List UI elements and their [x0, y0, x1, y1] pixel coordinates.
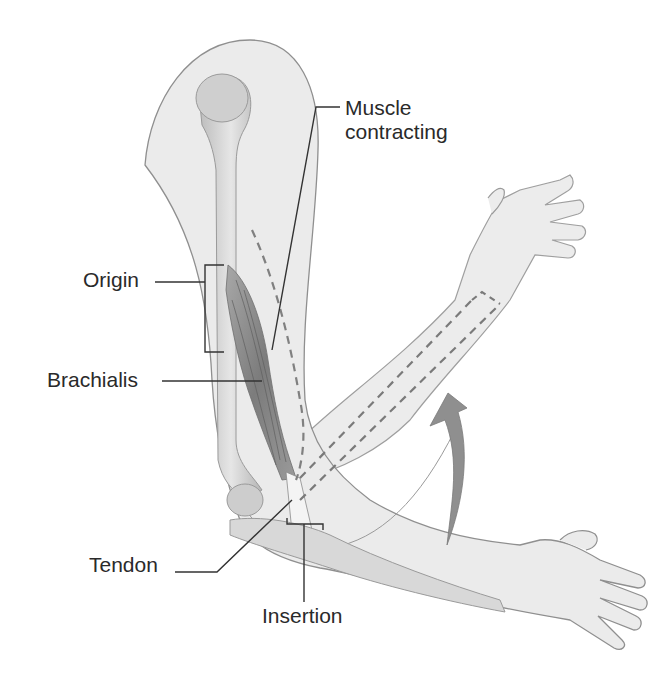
muscle-contracting-label: Muscle contracting: [345, 96, 448, 143]
muscle-contracting-line2: contracting: [345, 120, 448, 144]
insertion-label: Insertion: [262, 604, 343, 628]
elbow-flexion-diagram: [0, 0, 672, 687]
brachialis-label: Brachialis: [47, 368, 138, 392]
origin-label: Origin: [83, 268, 139, 292]
flexion-arrow: [430, 393, 467, 545]
tendon-label: Tendon: [89, 553, 158, 577]
muscle-contracting-line1: Muscle: [345, 96, 448, 120]
